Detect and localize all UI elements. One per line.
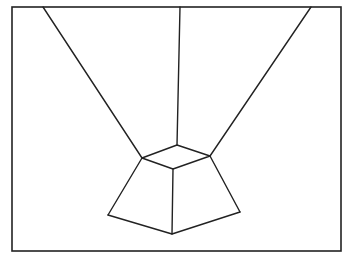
extension-line-left [43, 7, 142, 158]
top-face [142, 145, 210, 169]
extension-line-right [210, 7, 311, 156]
edge-left [108, 158, 142, 215]
frame-border [12, 7, 341, 251]
edge-right [210, 156, 240, 212]
edge-front [172, 169, 173, 234]
frustum-diagram [0, 0, 352, 261]
bottom-edges [108, 212, 240, 234]
extension-line-center [177, 7, 180, 145]
